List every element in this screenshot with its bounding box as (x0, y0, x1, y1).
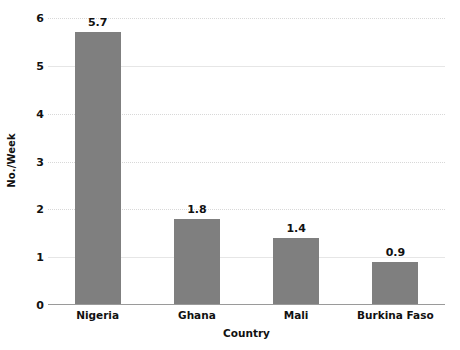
y-tick-label-3: 3 (22, 156, 44, 167)
y-tick-label-1: 1 (22, 252, 44, 263)
x-axis-title: Country (48, 327, 445, 340)
x-tick-label-nigeria: Nigeria (76, 309, 119, 322)
y-tick-label-5: 5 (22, 60, 44, 71)
bar-chart: No./Week 0 1 2 3 4 5 6 5.7 1.8 (0, 0, 460, 350)
bar-mali[interactable] (273, 238, 319, 305)
plot-area: 5.7 1.8 1.4 0.9 (48, 18, 445, 305)
bar-value-nigeria: 5.7 (88, 17, 108, 28)
bar-value-ghana: 1.8 (187, 204, 207, 215)
bar-burkina-faso[interactable] (372, 262, 418, 305)
bar-group-ghana: 1.8 (147, 18, 246, 305)
y-axis-title: No./Week (0, 0, 22, 320)
bar-group-mali: 1.4 (247, 18, 346, 305)
y-axis-title-text: No./Week (6, 133, 17, 187)
bar-value-burkina-faso: 0.9 (386, 247, 406, 258)
x-axis-tick-labels: Nigeria Ghana Mali Burkina Faso (48, 309, 445, 327)
bars-layer: 5.7 1.8 1.4 0.9 (48, 18, 445, 305)
y-tick-label-2: 2 (22, 204, 44, 215)
bar-ghana[interactable] (174, 219, 220, 305)
y-tick-label-0: 0 (22, 300, 44, 311)
bar-group-burkina-faso: 0.9 (346, 18, 445, 305)
x-axis-line (48, 304, 445, 305)
bar-group-nigeria: 5.7 (48, 18, 147, 305)
y-tick-label-4: 4 (22, 108, 44, 119)
x-tick-label-ghana: Ghana (178, 309, 216, 322)
bar-nigeria[interactable] (75, 32, 121, 305)
x-tick-label-mali: Mali (284, 309, 309, 322)
x-tick-label-burkina-faso: Burkina Faso (357, 309, 434, 322)
y-tick-label-6: 6 (22, 13, 44, 24)
bar-value-mali: 1.4 (286, 223, 306, 234)
y-axis-tick-labels: 0 1 2 3 4 5 6 (22, 0, 44, 350)
